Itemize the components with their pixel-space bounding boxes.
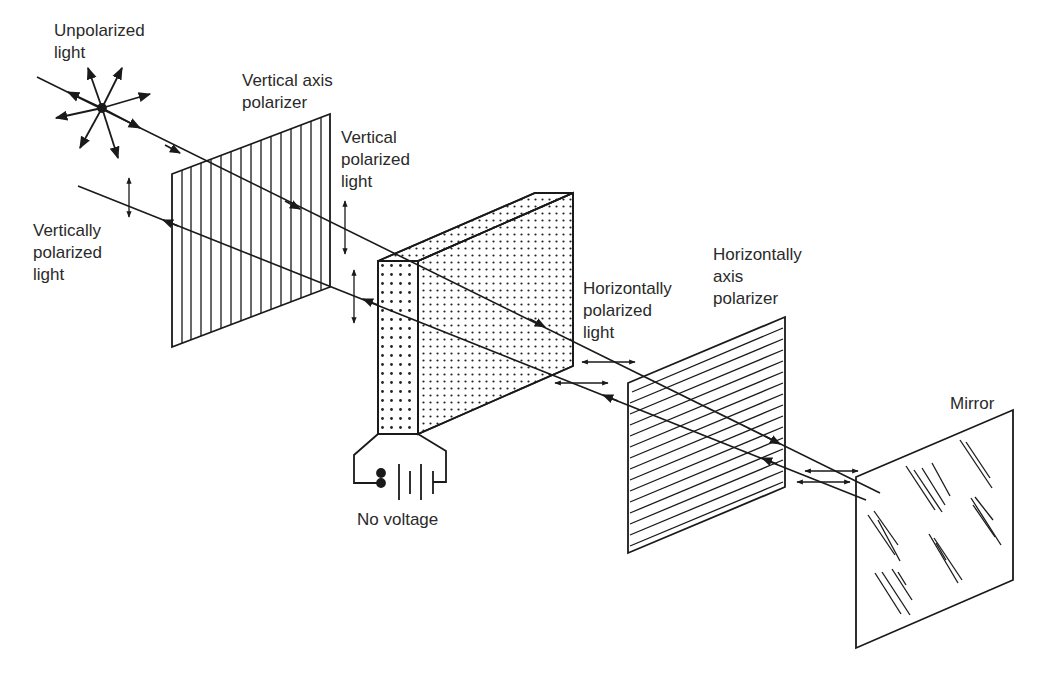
unpolarized-light-star-icon <box>56 68 150 158</box>
label-vertical-axis-polarizer: Vertical axis polarizer <box>242 70 333 114</box>
lcd-polarization-diagram <box>0 0 1041 675</box>
battery-circuit-icon <box>354 434 446 500</box>
vertical-axis-polarizer <box>172 114 330 347</box>
label-mirror: Mirror <box>950 393 994 415</box>
label-horizontally-polarized-light: Horizontally polarized light <box>583 278 672 344</box>
label-vertically-polarized-light: Vertically polarized light <box>33 220 102 286</box>
label-unpolarized-light: Unpolarized light <box>54 20 145 64</box>
label-horizontal-axis-polarizer: Horizontally axis polarizer <box>713 244 802 310</box>
mirror <box>856 410 1013 648</box>
label-no-voltage: No voltage <box>357 509 438 531</box>
label-vertical-polarized-light: Vertical polarized light <box>341 127 410 193</box>
liquid-crystal-cell <box>378 193 573 434</box>
